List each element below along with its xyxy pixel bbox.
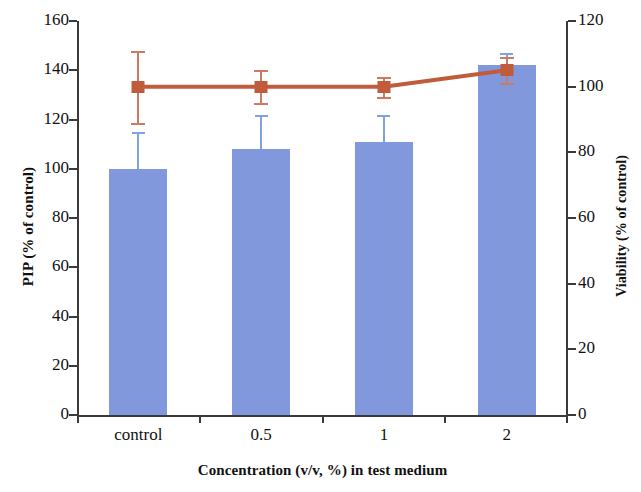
line-marker — [377, 81, 390, 93]
y-axis-right-tick — [568, 20, 576, 22]
y-axis-right-tick-label: 0 — [578, 404, 626, 424]
y-axis-left-tick — [69, 20, 77, 22]
line-marker — [132, 81, 145, 93]
plot-area: 020406080100120140160 020406080100120 co… — [77, 21, 568, 415]
line-error-cap — [500, 83, 514, 85]
line-error-cap — [131, 123, 145, 125]
y-axis-left-tick-label: 80 — [21, 207, 69, 227]
y-axis-right-tick — [568, 414, 576, 416]
y-axis-right-tick — [568, 348, 576, 350]
chart-figure: PIP (% of control) Viability (% of contr… — [0, 0, 641, 492]
x-axis-title: Concentration (v/v, %) in test medium — [77, 462, 568, 479]
y-axis-left-tick-label: 60 — [21, 256, 69, 276]
y-axis-right-tick — [568, 151, 576, 153]
y-axis-left-tick-label: 140 — [21, 59, 69, 79]
line-marker — [500, 64, 513, 76]
y-axis-left-tick-label: 20 — [21, 355, 69, 375]
x-axis-tick-label: 2 — [502, 425, 511, 445]
y-axis-right-tick — [568, 86, 576, 88]
line-error-cap — [377, 77, 391, 79]
y-axis-right-tick-label: 40 — [578, 273, 626, 293]
y-axis-left-tick-label: 0 — [21, 404, 69, 424]
y-axis-left-tick — [69, 119, 77, 121]
y-axis-right-tick-label: 60 — [578, 207, 626, 227]
line-series-path — [77, 21, 568, 417]
y-axis-left-tick — [69, 414, 77, 416]
x-axis-tick-label: 1 — [380, 425, 389, 445]
y-axis-left-tick-label: 100 — [21, 158, 69, 178]
y-axis-left-tick — [69, 69, 77, 71]
x-axis-tick-label: control — [114, 425, 162, 445]
y-axis-left-tick — [69, 217, 77, 219]
y-axis-right-tick — [568, 283, 576, 285]
y-axis-left-tick-label: 160 — [21, 10, 69, 30]
y-axis-left-tick-label: 120 — [21, 109, 69, 129]
line-error-cap — [254, 70, 268, 72]
line-error-cap — [377, 97, 391, 99]
line-marker — [255, 81, 268, 93]
y-axis-left-tick — [69, 266, 77, 268]
y-axis-right-tick-label: 120 — [578, 10, 626, 30]
y-axis-right-tick-label: 100 — [578, 76, 626, 96]
y-axis-left-tick — [69, 316, 77, 318]
y-axis-left-tick — [69, 168, 77, 170]
y-axis-left-tick — [69, 365, 77, 367]
x-axis-tick-label: 0.5 — [251, 425, 272, 445]
y-axis-right-tick-label: 80 — [578, 141, 626, 161]
line-error-cap — [254, 103, 268, 105]
line-error-cap — [131, 51, 145, 53]
y-axis-right-tick — [568, 217, 576, 219]
y-axis-right-tick-label: 20 — [578, 338, 626, 358]
line-error-cap — [500, 57, 514, 59]
y-axis-left-tick-label: 40 — [21, 306, 69, 326]
